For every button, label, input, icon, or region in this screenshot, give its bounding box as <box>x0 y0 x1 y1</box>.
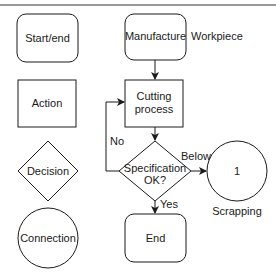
edge-no-label: No <box>110 135 124 147</box>
decision-line2: OK? <box>144 174 166 186</box>
connector-label: 1 <box>234 165 240 177</box>
process-line1: Cutting <box>137 90 172 102</box>
legend-connection-label: Connection <box>20 232 76 244</box>
process-node: Cutting process <box>125 80 183 127</box>
connector-node: 1 <box>207 141 267 201</box>
decision-line1: Specification <box>124 162 186 174</box>
start-node: Manufacture <box>125 14 186 60</box>
workpiece-note: Workpiece <box>191 30 243 42</box>
end-node-label: End <box>146 232 166 244</box>
edge-yes-label: Yes <box>160 198 178 210</box>
legend-action: Action <box>18 80 76 127</box>
legend-decision-label: Decision <box>27 165 69 177</box>
scrapping-note: Scrapping <box>212 205 262 217</box>
legend-action-label: Action <box>32 97 63 109</box>
start-node-label: Manufacture <box>125 30 186 42</box>
flowchart-diagram: Start/end Action Decision Connection Man… <box>0 0 276 276</box>
legend-start-end: Start/end <box>17 14 78 62</box>
end-node: End <box>125 214 186 262</box>
edge-below-label: Below <box>181 150 211 162</box>
legend-decision: Decision <box>18 141 78 201</box>
legend-start-end-label: Start/end <box>25 32 70 44</box>
legend-connection: Connection <box>18 208 78 268</box>
process-line2: process <box>135 103 174 115</box>
